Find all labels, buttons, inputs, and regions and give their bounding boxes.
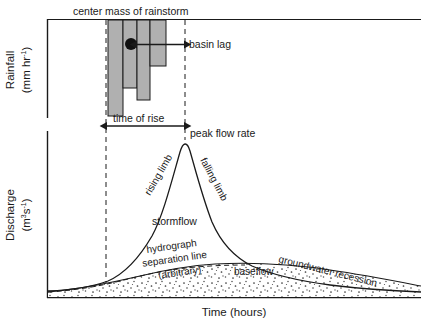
discharge-axis-units: (m3s-1) xyxy=(20,198,32,231)
center-mass-marker-icon xyxy=(125,38,137,50)
baseflow-label: baseflow xyxy=(234,266,274,277)
hydrograph-figure: center mass of rainstorm Rainfall (mm hr… xyxy=(0,0,428,323)
x-axis-label: Time (hours) xyxy=(202,306,267,318)
basin-lag-label: basin lag xyxy=(189,38,231,50)
rainfall-bar xyxy=(150,20,166,66)
center-mass-title: center mass of rainstorm xyxy=(73,5,189,17)
rainfall-panel: center mass of rainstorm Rainfall (mm hr… xyxy=(4,5,421,119)
svg-text:(mm hr-1): (mm hr-1) xyxy=(20,47,32,94)
stormflow-label: stormflow xyxy=(152,215,197,227)
time-of-rise-label: time of rise xyxy=(113,112,165,124)
rainfall-bar xyxy=(108,20,123,116)
hyetograph-bars xyxy=(108,20,166,116)
rainfall-bar xyxy=(123,20,137,88)
discharge-axis-label: Discharge xyxy=(4,189,16,241)
svg-text:Discharge: Discharge xyxy=(4,189,16,241)
peak-flow-rate-label: peak flow rate xyxy=(190,127,256,139)
svg-text:Rainfall: Rainfall xyxy=(4,51,16,89)
svg-text:(m3s-1): (m3s-1) xyxy=(20,198,32,231)
rainfall-axis-label: Rainfall xyxy=(4,51,16,89)
discharge-panel: Discharge (m3s-1) peak flow rate rising … xyxy=(4,127,421,318)
rainfall-bar xyxy=(137,20,150,100)
rainfall-axis-units: (mm hr-1) xyxy=(20,47,32,94)
